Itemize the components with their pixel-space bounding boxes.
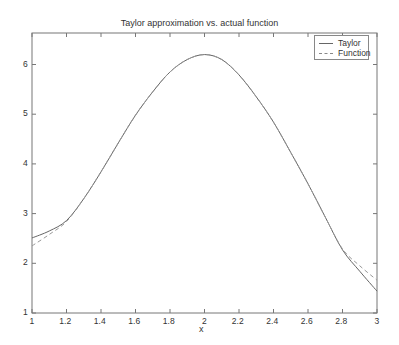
plot-frame <box>32 33 377 313</box>
legend-label: Function <box>338 48 371 58</box>
y-tick-label: 3 <box>23 208 28 218</box>
x-tick-label: 1 <box>30 316 35 326</box>
taylor-line <box>32 55 377 292</box>
x-tick-label: 1.4 <box>94 316 106 326</box>
y-tick-label: 4 <box>23 158 28 168</box>
legend-item-taylor: Taylor <box>319 38 361 48</box>
x-tick-label: 1.6 <box>128 316 140 326</box>
y-tick-label: 5 <box>23 108 28 118</box>
function-line <box>32 55 377 281</box>
x-tick-label: 1.2 <box>59 316 71 326</box>
y-tick-label: 1 <box>23 307 28 317</box>
x-axis-ticks <box>32 33 377 313</box>
chart-title: Taylor approximation vs. actual function <box>0 18 399 28</box>
y-axis-ticks <box>32 65 377 314</box>
x-tick-label: 2 <box>202 316 207 326</box>
x-tick-label: 1.8 <box>163 316 175 326</box>
x-tick-label: 2.8 <box>335 316 347 326</box>
legend-item-function: Function <box>319 48 371 58</box>
x-tick-label: 2.2 <box>232 316 244 326</box>
dashed-line-icon <box>319 53 333 54</box>
y-tick-label: 2 <box>23 257 28 267</box>
y-tick-label: 6 <box>23 59 28 69</box>
solid-line-icon <box>319 43 333 44</box>
legend: Taylor Function <box>314 35 369 60</box>
x-tick-label: 2.6 <box>301 316 313 326</box>
x-tick-label: 3 <box>375 316 380 326</box>
legend-label: Taylor <box>338 38 361 48</box>
x-tick-label: 2.4 <box>266 316 278 326</box>
